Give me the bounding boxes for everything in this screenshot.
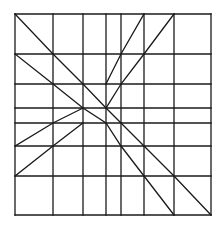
left-shallow-line-1 xyxy=(15,108,83,146)
diagram-canvas xyxy=(0,0,223,232)
diagonal-segments xyxy=(15,14,211,215)
top-steep-line-2 xyxy=(106,14,174,108)
lower-diagonal xyxy=(15,54,174,215)
grid-diagram xyxy=(0,0,223,232)
top-steep-line-1 xyxy=(106,14,144,84)
left-shallow-line-2 xyxy=(15,123,83,176)
main-diagonal xyxy=(15,14,211,215)
